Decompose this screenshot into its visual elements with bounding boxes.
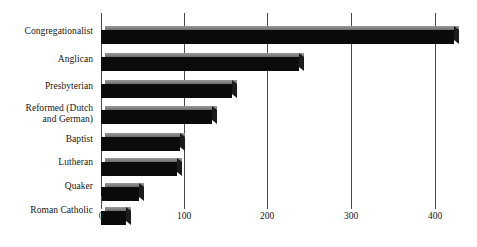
bar-presbyterian [101,80,237,98]
bar-quaker [101,183,144,201]
category-label-quaker: Quaker [65,181,93,192]
bar-front-face [101,30,454,44]
bar-front-face [101,137,180,151]
bar-front-face [101,162,177,176]
tick-label-300: 300 [344,211,358,221]
bar-front-face [101,57,299,71]
category-label-presbyterian: Presbyterian [45,81,93,92]
bar-front-face [101,187,139,201]
category-label-reformed: Reformed (Dutch and German) [26,103,94,125]
tick-mark-400 [435,196,436,205]
category-label-baptist: Baptist [66,134,93,145]
tick-mark-300 [351,196,352,205]
tick-label-200: 200 [260,211,274,221]
tick-mark-0 [101,196,102,205]
plot-area [101,13,435,209]
bar-lutheran [101,158,182,176]
tick-label-400: 400 [428,211,442,221]
bar-reformed [101,106,217,124]
bar-anglican [101,53,304,71]
value-axis: 0 100 200 300 400 [101,209,435,239]
category-label-roman-catholic: Roman Catholic [30,205,93,216]
category-axis-labels: Congregationalist Anglican Presbyterian … [0,0,97,247]
tick-label-0: 0 [99,211,104,221]
category-label-congregationalist: Congregationalist [25,26,93,37]
tick-mark-200 [267,196,268,205]
category-label-lutheran: Lutheran [58,157,93,168]
tick-mark-100 [184,196,185,205]
bar-chart: Congregationalist Anglican Presbyterian … [0,0,477,247]
bar-congregationalist [101,26,459,44]
tick-label-100: 100 [177,211,191,221]
bar-front-face [101,84,232,98]
bar-front-face [101,110,212,124]
bar-baptist [101,133,185,151]
category-label-anglican: Anglican [58,54,93,65]
